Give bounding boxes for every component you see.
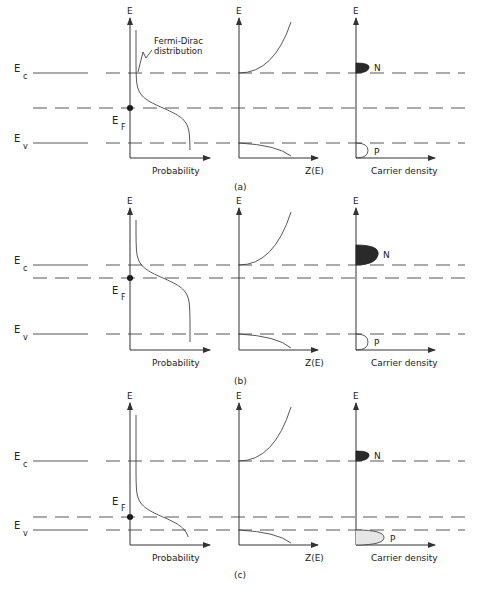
conduction-dos-curve <box>239 212 291 265</box>
carrier-density-axis-y-label: E <box>353 196 359 206</box>
panel-caption: (a) <box>234 182 247 192</box>
zoe-axis-x-label: Z(E) <box>305 166 324 176</box>
zoe-axis-y-label: E <box>236 196 242 206</box>
ef-label-subscript: F <box>121 293 126 302</box>
ec-label-subscript: c <box>23 72 27 81</box>
p-label: P <box>390 534 396 544</box>
ec-label: E <box>14 63 20 74</box>
ec-label-subscript: c <box>23 460 27 469</box>
p-label: P <box>374 338 380 348</box>
hole-density-lobe <box>356 143 368 158</box>
carrier-density-axis-x-label: Carrier density <box>371 553 438 563</box>
ef-label-subscript: F <box>121 504 126 513</box>
panel-caption: (b) <box>234 376 247 386</box>
ef-label: E <box>112 496 118 507</box>
panel-a: EcEvEFEProbabilityEZ(E)ECarrier densityF… <box>14 6 465 192</box>
conduction-dos-curve <box>239 22 291 73</box>
panel-b: EcEvEFEProbabilityEZ(E)ECarrier densityN… <box>14 196 465 386</box>
n-label: N <box>374 63 381 73</box>
hole-density-lobe <box>356 530 384 545</box>
zoe-axis-x-label: Z(E) <box>305 553 324 563</box>
probability-axis-x-label: Probability <box>152 358 200 368</box>
annotation-line-1: Fermi-Dirac <box>154 36 203 46</box>
annotation-leader <box>138 50 152 72</box>
zoe-axis-y-label: E <box>236 6 242 16</box>
ef-label: E <box>112 115 118 126</box>
n-label: N <box>374 451 381 461</box>
ev-label: E <box>14 133 20 144</box>
probability-axis-x-label: Probability <box>152 166 200 176</box>
electron-density-lobe <box>356 63 369 73</box>
ev-label-subscript: v <box>23 142 28 151</box>
panel-c: EcEvEFEProbabilityEZ(E)ECarrier densityN… <box>14 391 465 580</box>
carrier-density-axis-y-label: E <box>353 6 359 16</box>
ef-label: E <box>112 285 118 296</box>
carrier-density-axis-x-label: Carrier density <box>371 358 438 368</box>
n-label: N <box>383 250 390 260</box>
valence-dos-curve <box>239 143 291 156</box>
electron-density-lobe <box>356 245 378 265</box>
probability-axis-y-label: E <box>127 391 133 401</box>
zoe-axis-x-label: Z(E) <box>305 358 324 368</box>
band-diagram-figure: EcEvEFEProbabilityEZ(E)ECarrier densityF… <box>0 0 485 600</box>
ev-label-subscript: v <box>23 529 28 538</box>
ec-label: E <box>14 255 20 266</box>
ev-label-subscript: v <box>23 333 28 342</box>
valence-dos-curve <box>239 530 291 543</box>
fermi-dirac-curve <box>136 415 188 537</box>
p-label: P <box>374 147 380 157</box>
hole-density-lobe <box>356 334 368 350</box>
ec-label: E <box>14 451 20 462</box>
fermi-dirac-curve <box>136 220 190 342</box>
panel-caption: (c) <box>234 570 246 580</box>
probability-axis-y-label: E <box>127 196 133 206</box>
electron-density-lobe <box>356 451 369 461</box>
probability-axis-x-label: Probability <box>152 553 200 563</box>
valence-dos-curve <box>239 334 291 348</box>
ec-label-subscript: c <box>23 264 27 273</box>
ev-label: E <box>14 324 20 335</box>
probability-axis-y-label: E <box>127 6 133 16</box>
carrier-density-axis-y-label: E <box>353 391 359 401</box>
ef-label-subscript: F <box>121 123 126 132</box>
conduction-dos-curve <box>239 407 291 461</box>
ev-label: E <box>14 520 20 531</box>
zoe-axis-y-label: E <box>236 391 242 401</box>
carrier-density-axis-x-label: Carrier density <box>371 166 438 176</box>
annotation-line-2: distribution <box>154 46 202 56</box>
